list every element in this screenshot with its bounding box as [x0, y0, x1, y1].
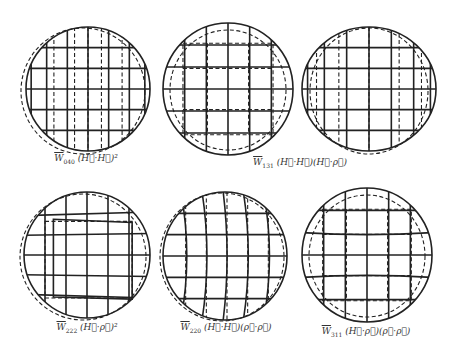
- label-coef: W: [54, 153, 63, 163]
- dashed-inner-square: [45, 221, 132, 298]
- label-expr: (H⃗·H⃗)(H⃗·ρ⃗): [277, 157, 347, 167]
- dashed-reference-circle: [160, 193, 284, 321]
- grid-horizontal-line: [24, 275, 150, 277]
- label-expr: (H⃗·H⃗)²: [78, 153, 118, 163]
- label-sub: 222: [66, 327, 77, 334]
- label-coef: W: [253, 157, 262, 167]
- panel-w131b: [302, 27, 436, 154]
- label-sub: 311: [331, 331, 342, 338]
- label-w311: W311 (H⃗·ρ⃗)(ρ⃗·ρ⃗): [322, 326, 411, 338]
- grid-horizontal-line: [24, 234, 150, 236]
- panel-w040: [21, 27, 150, 154]
- label-expr: (H⃗·ρ⃗)(ρ⃗·ρ⃗): [345, 326, 410, 336]
- panel-w311: [302, 188, 432, 322]
- label-w222: W222 (H⃗·ρ⃗)²: [56, 322, 117, 334]
- panel-w222: [20, 192, 150, 320]
- label-w131: W131 (H⃗·H⃗)(H⃗·ρ⃗): [253, 157, 347, 169]
- label-coef: W: [180, 322, 189, 332]
- panel-w220: [160, 192, 287, 321]
- label-sub: 131: [262, 162, 273, 169]
- aberration-figure: [0, 0, 462, 361]
- label-w220: W220 (H⃗·H⃗)(ρ⃗·ρ⃗): [180, 322, 271, 334]
- label-coef: W: [56, 322, 65, 332]
- label-w040: W040 (H⃗·H⃗)²: [54, 153, 118, 165]
- label-coef: W: [322, 326, 331, 336]
- label-expr: (H⃗·H⃗)(ρ⃗·ρ⃗): [204, 322, 272, 332]
- panel-w131: [163, 23, 293, 155]
- label-sub: 040: [63, 158, 74, 165]
- label-expr: (H⃗·ρ⃗)²: [80, 322, 117, 332]
- label-sub: 220: [190, 327, 201, 334]
